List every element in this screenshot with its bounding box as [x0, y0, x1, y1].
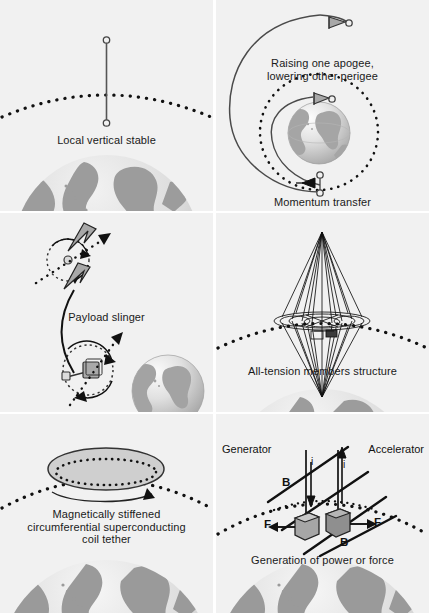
payload-box — [83, 362, 99, 378]
earth-limb — [218, 389, 418, 412]
caption-line2: circumferential superconducting — [27, 521, 185, 533]
panel-caption: Payload slinger — [0, 311, 213, 324]
payload-trajectory — [62, 290, 74, 373]
end-mass-bottom — [103, 120, 109, 126]
label-f-left: F — [264, 518, 271, 530]
earth-limb — [4, 155, 200, 211]
panel-caption: Generation of power or force — [216, 554, 429, 567]
panel-local-vertical-stable: Local vertical stable — [0, 0, 213, 211]
mass-upper-inner — [329, 96, 335, 102]
label-b-lower: B — [340, 536, 348, 548]
end-mass-top — [103, 37, 109, 43]
mass-apogee — [346, 20, 352, 26]
upper-cone — [282, 232, 362, 323]
coil-ellipse — [48, 448, 164, 490]
caption-line1: Magnetically stiffened — [53, 508, 161, 520]
label-i-left: i — [311, 456, 313, 467]
force-arrows — [268, 519, 377, 532]
earth-globe — [284, 102, 351, 164]
label-accelerator: Accelerator — [368, 443, 424, 455]
orbit-arc — [218, 504, 427, 534]
transfer-orbit — [230, 15, 320, 192]
earth-limb — [0, 560, 212, 613]
tether-concepts-figure: Local vertical stable — [0, 0, 429, 615]
counterweight-box — [62, 372, 70, 380]
label-i-right: i — [343, 459, 345, 470]
panel-all-tension-members: All-tension members structure — [216, 213, 429, 412]
hub-right — [334, 316, 364, 326]
magnetic-field-lines — [268, 447, 396, 556]
panel-caption: Local vertical stable — [0, 134, 213, 147]
upper-hub — [64, 256, 72, 264]
label-b-upper: B — [282, 476, 290, 488]
label-generator: Generator — [222, 443, 272, 455]
mass-lower-top — [317, 172, 323, 178]
earth-globe — [127, 355, 204, 412]
caption-line3: coil tether — [82, 533, 131, 545]
panel-caption: Magnetically stiffened circumferential s… — [0, 508, 213, 546]
label-f-right: F — [374, 516, 381, 528]
panel-caption-top: Raising one apogee, lowering other perig… — [216, 57, 429, 82]
climbing-payload-arrow — [64, 263, 90, 289]
panel-payload-slinger: Payload slinger — [0, 213, 213, 412]
caption-top-line1: Raising one apogee, — [271, 57, 374, 69]
caption-top-line2: lowering other perigee — [267, 70, 378, 82]
upper-velocity-dashed — [36, 239, 104, 283]
panel-power-or-force: Generator Accelerator B B i i F F Genera… — [216, 414, 429, 613]
lower-cone — [282, 321, 362, 397]
current-left-arrowhead — [307, 496, 315, 507]
earth-limb — [216, 560, 428, 613]
panel-caption: All-tension members structure — [216, 365, 429, 378]
panel-magnetic-coil-tether: Magnetically stiffened circumferential s… — [0, 414, 213, 613]
panel-caption: Momentum transfer — [216, 196, 429, 209]
rotation-arc — [52, 492, 152, 501]
panel-momentum-transfer: Raising one apogee, lowering other perig… — [216, 0, 429, 211]
